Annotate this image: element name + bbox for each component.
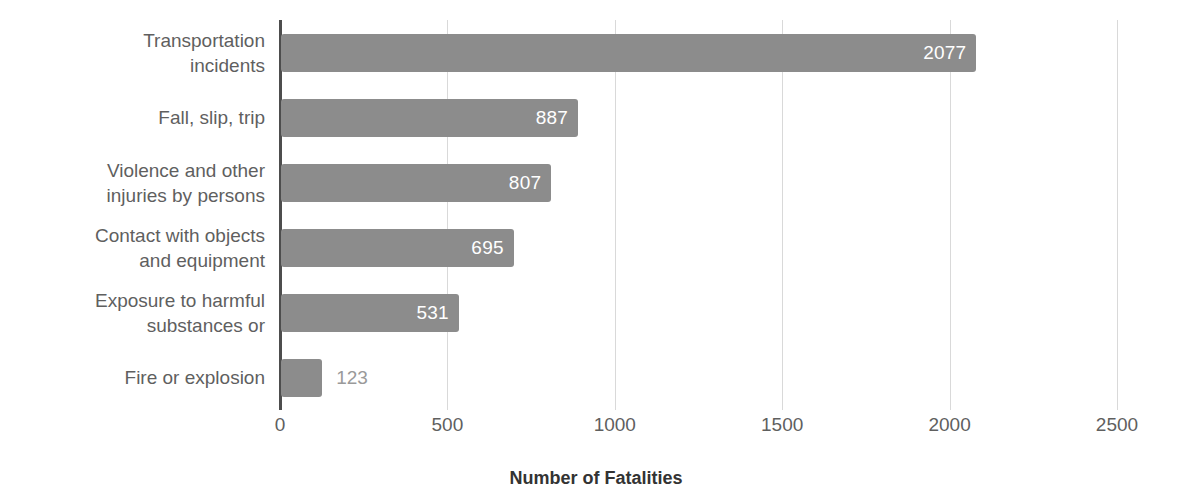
bar-container: 887 — [281, 85, 578, 150]
bar[interactable]: 807 — [281, 164, 551, 202]
bar-container: 695 — [281, 215, 514, 280]
bar-value-label: 2077 — [923, 42, 966, 64]
x-tick-label: 500 — [432, 414, 464, 436]
x-tick-label: 0 — [275, 414, 286, 436]
bar-container: 807 — [281, 150, 551, 215]
bar-row: Transportation incidents2077 — [0, 20, 1192, 85]
category-label: Exposure to harmful substances or — [0, 288, 265, 338]
category-label: Transportation incidents — [0, 28, 265, 78]
bar-row: Violence and other injuries by persons80… — [0, 150, 1192, 215]
bar[interactable] — [281, 359, 322, 397]
x-axis-title: Number of Fatalities — [0, 468, 1192, 489]
bar[interactable]: 531 — [281, 294, 459, 332]
bar-rows: Transportation incidents2077Fall, slip, … — [0, 20, 1192, 410]
x-tick-label: 2000 — [928, 414, 970, 436]
bar-row: Fire or explosion123 — [0, 345, 1192, 410]
category-label: Contact with objects and equipment — [0, 223, 265, 273]
category-label: Fall, slip, trip — [0, 105, 265, 130]
bar-container: 2077 — [281, 20, 976, 85]
bar[interactable]: 2077 — [281, 34, 976, 72]
bar[interactable]: 695 — [281, 229, 514, 267]
x-tick-label: 1500 — [761, 414, 803, 436]
x-tick-label: 2500 — [1096, 414, 1138, 436]
bar-value-label: 123 — [336, 367, 368, 389]
bar-container: 123 — [281, 345, 368, 410]
bar-row: Exposure to harmful substances or531 — [0, 280, 1192, 345]
bar[interactable]: 887 — [281, 99, 578, 137]
category-label: Fire or explosion — [0, 365, 265, 390]
bar-chart: Transportation incidents2077Fall, slip, … — [0, 0, 1192, 501]
bar-row: Contact with objects and equipment695 — [0, 215, 1192, 280]
bar-value-label: 695 — [471, 237, 503, 259]
bar-value-label: 807 — [509, 172, 541, 194]
bar-row: Fall, slip, trip887 — [0, 85, 1192, 150]
category-label: Violence and other injuries by persons — [0, 158, 265, 208]
bar-value-label: 531 — [416, 302, 448, 324]
x-tick-label: 1000 — [594, 414, 636, 436]
bar-container: 531 — [281, 280, 459, 345]
bar-value-label: 887 — [536, 107, 568, 129]
